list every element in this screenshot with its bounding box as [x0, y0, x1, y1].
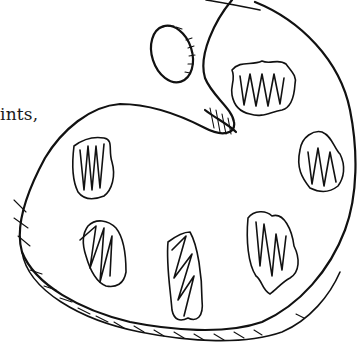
paint-blob-bottom-left — [80, 221, 126, 287]
paint-blob-bottom-right — [247, 212, 298, 294]
thumb-hole-hatching — [160, 26, 195, 73]
palette-drawing — [0, 0, 358, 347]
paint-blob-left — [73, 137, 114, 198]
paint-blob-top-right — [232, 61, 296, 115]
palette-outline — [20, 0, 356, 330]
thumb-hole — [144, 20, 200, 88]
paint-blob-bottom-center — [167, 232, 202, 320]
palette-illustration: ints, — [0, 0, 358, 347]
rim-hatching — [14, 200, 304, 340]
paint-blob-right — [299, 132, 344, 192]
